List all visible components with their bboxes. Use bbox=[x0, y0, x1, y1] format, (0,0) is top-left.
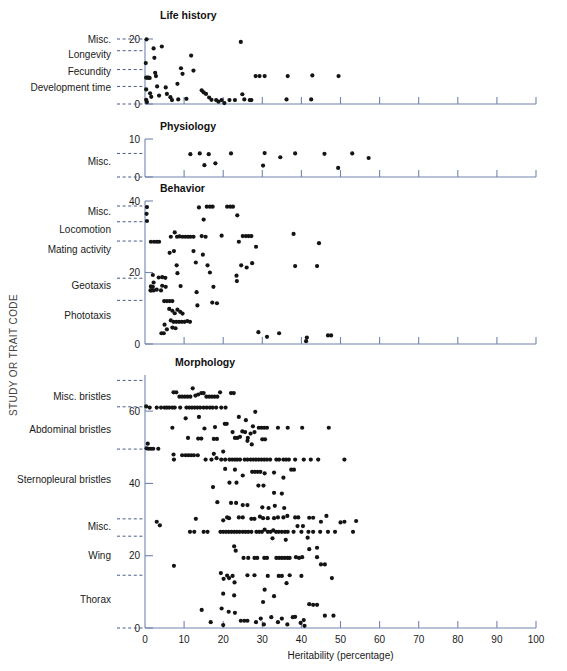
data-point bbox=[293, 264, 297, 268]
data-point bbox=[232, 593, 236, 597]
data-point bbox=[261, 484, 265, 488]
data-point bbox=[306, 530, 310, 534]
x-tick-label-40: 40 bbox=[296, 634, 308, 645]
data-point bbox=[191, 235, 195, 239]
data-point bbox=[211, 485, 215, 489]
data-point bbox=[240, 92, 244, 96]
data-point bbox=[229, 151, 233, 155]
data-point bbox=[285, 514, 289, 518]
data-point bbox=[178, 405, 182, 409]
data-point bbox=[171, 452, 175, 456]
data-point bbox=[221, 577, 225, 581]
data-point bbox=[336, 166, 340, 170]
data-point bbox=[277, 331, 281, 335]
data-point bbox=[301, 524, 305, 528]
data-point bbox=[249, 98, 253, 102]
data-point bbox=[249, 530, 253, 534]
data-point bbox=[306, 536, 310, 540]
data-point bbox=[261, 164, 265, 168]
data-point bbox=[152, 46, 156, 50]
data-point bbox=[233, 468, 237, 472]
data-point bbox=[280, 574, 284, 578]
data-point bbox=[198, 151, 202, 155]
data-point bbox=[324, 514, 328, 518]
data-point bbox=[243, 430, 247, 434]
category-label-behavior-2: Mating activity bbox=[48, 244, 111, 255]
data-point bbox=[272, 516, 276, 520]
data-point bbox=[254, 620, 258, 624]
data-point bbox=[201, 253, 205, 257]
data-point bbox=[148, 76, 152, 80]
data-point bbox=[311, 516, 315, 520]
panel-title-physiology: Physiology bbox=[160, 120, 216, 132]
data-point bbox=[159, 288, 163, 292]
data-point bbox=[155, 405, 159, 409]
data-point bbox=[188, 395, 192, 399]
data-point bbox=[291, 530, 295, 534]
data-point bbox=[184, 416, 188, 420]
data-point bbox=[144, 212, 148, 216]
data-point bbox=[145, 205, 149, 209]
data-point bbox=[215, 500, 219, 504]
heritability-scatter-figure: Life history020Misc.LongevityFecundityDe… bbox=[0, 0, 567, 671]
data-point bbox=[296, 515, 300, 519]
category-label-behavior-4: Phototaxis bbox=[64, 310, 111, 321]
data-point bbox=[263, 151, 267, 155]
data-point bbox=[282, 506, 286, 510]
data-point bbox=[310, 73, 314, 77]
data-point bbox=[309, 457, 313, 461]
data-point bbox=[291, 232, 295, 236]
data-point bbox=[242, 97, 246, 101]
data-point bbox=[168, 251, 172, 255]
data-point bbox=[255, 556, 259, 560]
data-point bbox=[174, 390, 178, 394]
data-point bbox=[311, 603, 315, 607]
data-point bbox=[263, 74, 267, 78]
data-point bbox=[253, 410, 257, 414]
data-point bbox=[170, 299, 174, 303]
data-point bbox=[172, 564, 176, 568]
data-point bbox=[215, 301, 219, 305]
y-tick-label-behavior-0: 0 bbox=[134, 339, 140, 350]
data-point bbox=[248, 431, 252, 435]
data-point bbox=[354, 519, 358, 523]
data-point bbox=[164, 85, 168, 89]
data-point bbox=[208, 270, 212, 274]
data-point bbox=[144, 87, 148, 91]
data-point bbox=[235, 213, 239, 217]
data-point bbox=[205, 263, 209, 267]
y-tick-label-morphology-20: 20 bbox=[129, 550, 141, 561]
category-label-life-history-1: Longevity bbox=[68, 49, 111, 60]
data-point bbox=[234, 481, 238, 485]
data-point bbox=[342, 457, 346, 461]
data-point bbox=[319, 520, 323, 524]
data-point bbox=[338, 520, 342, 524]
data-point bbox=[262, 622, 266, 626]
data-point bbox=[170, 426, 174, 430]
data-point bbox=[154, 74, 158, 78]
data-point bbox=[272, 491, 276, 495]
category-label-physiology-0: Misc. bbox=[88, 156, 111, 167]
data-point bbox=[179, 66, 183, 70]
category-label-behavior-1: Locomotion bbox=[59, 224, 111, 235]
data-point bbox=[302, 618, 306, 622]
data-point bbox=[230, 574, 234, 578]
data-point bbox=[300, 426, 304, 430]
data-point bbox=[263, 437, 267, 441]
data-point bbox=[151, 273, 155, 277]
data-point bbox=[197, 415, 201, 419]
data-point bbox=[239, 40, 243, 44]
data-point bbox=[220, 234, 224, 238]
panel-title-morphology: Morphology bbox=[175, 356, 235, 368]
data-point bbox=[254, 245, 258, 249]
data-point bbox=[286, 426, 290, 430]
category-label-life-history-2: Fecundity bbox=[68, 66, 111, 77]
data-point bbox=[170, 98, 174, 102]
data-point bbox=[178, 284, 182, 288]
data-point bbox=[232, 580, 236, 584]
data-point bbox=[241, 503, 245, 507]
data-point bbox=[272, 470, 276, 474]
data-point bbox=[176, 97, 180, 101]
data-point bbox=[249, 234, 253, 238]
data-point bbox=[336, 74, 340, 78]
